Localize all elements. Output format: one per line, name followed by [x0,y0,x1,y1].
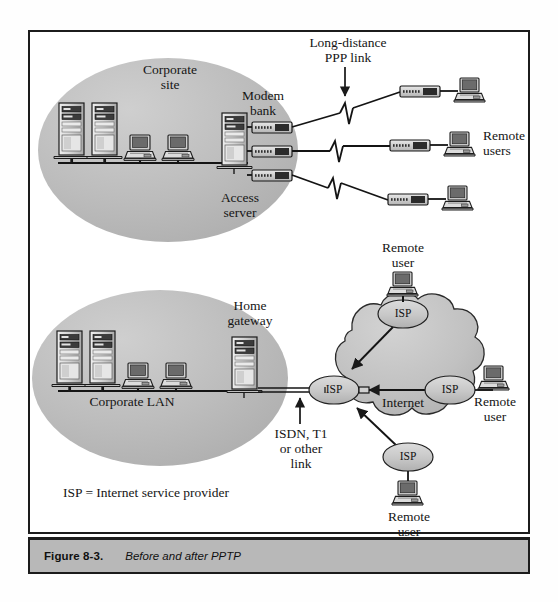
isp-east-label: ISP [430,383,470,395]
modem-bank-label: Modem bank [222,88,304,118]
figure-caption-bar: Figure 8-3. Before and after PPTP [28,537,530,574]
remote-user-bottom-label: Remote user [372,509,446,539]
isp-north-label: ISP [383,307,423,319]
isp-south-label: ISP [388,450,428,462]
internet-label: Internet [360,395,446,410]
remote-user-right-label: Remote user [458,394,532,424]
figure-root: Corporate site Modem bank Access server … [0,0,558,602]
figure-title: Before and after PPTP [125,550,241,562]
home-gateway-label: Home gateway [204,298,296,328]
corporate-lan-label: Corporate LAN [62,394,202,409]
isdn-link-label: ISDN, T1 or other link [258,426,344,471]
access-server-label: Access server [196,190,284,220]
remote-users-label: Remote users [483,128,553,158]
remote-user-top-label: Remote user [366,240,440,270]
ppp-link-label: Long-distance PPP link [288,35,408,65]
isp-west-label: ISP [314,383,354,395]
figure-number: Figure 8-3. [44,550,103,562]
isp-legend-footnote: ISP = Internet service provider [63,485,323,500]
corporate-site-label: Corporate site [122,62,218,92]
